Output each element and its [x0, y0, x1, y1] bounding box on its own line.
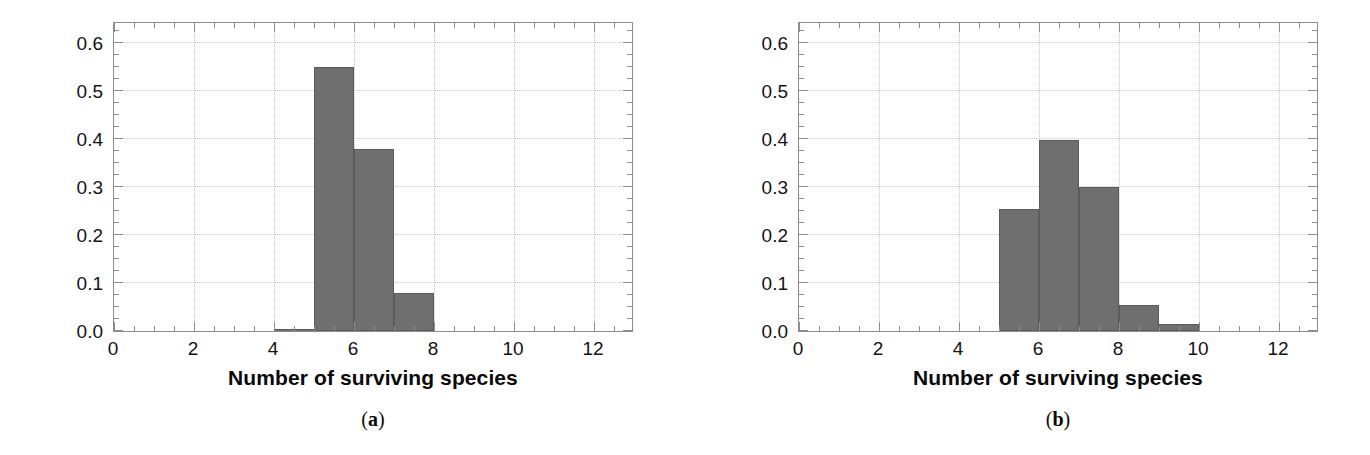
- y-axis-tick: [799, 270, 804, 271]
- x-axis-tick: [514, 23, 515, 32]
- y-axis-tick: [627, 318, 632, 319]
- y-axis-tick: [114, 258, 119, 259]
- x-axis-tick: [154, 326, 155, 331]
- y-axis-tick: [1312, 150, 1317, 151]
- x-axis-tick: [1259, 326, 1260, 331]
- x-axis-tick: [1239, 326, 1240, 331]
- y-axis-tick: [627, 78, 632, 79]
- x-axis-tick: [919, 326, 920, 331]
- x-axis-tick: [334, 23, 335, 28]
- y-axis-tick: [799, 42, 808, 43]
- y-axis-tick: [627, 210, 632, 211]
- panel-a: Probability Number of surviving species …: [0, 0, 685, 455]
- x-axis-tick: [554, 23, 555, 28]
- x-axis-tick: [394, 23, 395, 28]
- y-axis-tick: [114, 102, 119, 103]
- x-axis-title-a: Number of surviving species: [113, 366, 633, 390]
- x-axis-tick: [254, 326, 255, 331]
- x-axis-tick: [1199, 23, 1200, 32]
- x-axis-tick: [494, 23, 495, 28]
- x-axis-tick: [454, 326, 455, 331]
- y-axis-tick: [799, 330, 808, 331]
- x-axis-tick: [839, 23, 840, 28]
- x-axis-tick: [594, 23, 595, 32]
- x-axis-tick: [514, 322, 515, 331]
- y-axis-tick: [627, 246, 632, 247]
- y-axis-tick: [1312, 306, 1317, 307]
- x-axis-tick: [1299, 326, 1300, 331]
- y-axis-tick: [627, 258, 632, 259]
- x-axis-tick: [314, 23, 315, 28]
- y-axis-tick: [627, 102, 632, 103]
- y-axis-tick: [1312, 102, 1317, 103]
- y-axis-tick: [1308, 138, 1317, 139]
- y-axis-tick: [1312, 198, 1317, 199]
- x-axis-tick: [534, 326, 535, 331]
- y-axis-tick-label: 0.5: [718, 81, 788, 103]
- y-axis-tick: [114, 114, 119, 115]
- x-axis-tick: [114, 23, 115, 32]
- y-axis-tick-label: 0.1: [718, 273, 788, 295]
- x-axis-tick: [1199, 322, 1200, 331]
- x-axis-tick: [614, 326, 615, 331]
- x-axis-tick: [474, 23, 475, 28]
- y-axis-tick-label: 0.2: [718, 225, 788, 247]
- y-axis-tick: [114, 330, 123, 331]
- x-axis-tick: [354, 23, 355, 32]
- y-axis-tick-label: 0.6: [33, 33, 103, 55]
- panel-b: Probability Number of surviving species …: [685, 0, 1370, 455]
- y-axis-tick: [799, 90, 808, 91]
- x-axis-tick: [1099, 326, 1100, 331]
- y-axis-tick: [1312, 222, 1317, 223]
- x-axis-tick: [939, 23, 940, 28]
- y-axis-tick: [799, 282, 808, 283]
- x-axis-tick: [174, 326, 175, 331]
- y-axis-tick: [1312, 30, 1317, 31]
- x-axis-tick: [839, 326, 840, 331]
- y-axis-tick-label: 0.4: [33, 129, 103, 151]
- y-axis-tick-label: 0.4: [718, 129, 788, 151]
- x-axis-tick: [594, 322, 595, 331]
- x-axis-tick: [1279, 322, 1280, 331]
- x-axis-tick: [274, 23, 275, 32]
- y-axis-tick: [114, 126, 119, 127]
- x-axis-tick: [374, 23, 375, 28]
- y-axis-tick: [623, 234, 632, 235]
- y-axis-tick-label: 0.5: [33, 81, 103, 103]
- y-axis-tick: [799, 102, 804, 103]
- y-axis-tick: [1312, 210, 1317, 211]
- x-axis-tick: [194, 23, 195, 32]
- y-axis-tick: [1312, 66, 1317, 67]
- y-axis-tick: [114, 210, 119, 211]
- plot-inner-b: [799, 23, 1317, 331]
- y-axis-tick: [627, 150, 632, 151]
- x-axis-tick: [979, 326, 980, 331]
- y-axis-tick: [114, 162, 119, 163]
- x-axis-tick: [1159, 326, 1160, 331]
- y-axis-tick: [1312, 174, 1317, 175]
- panel-caption-a: (a): [113, 408, 633, 431]
- histogram-bar: [999, 209, 1039, 331]
- y-axis-tick: [627, 306, 632, 307]
- y-axis-tick: [114, 246, 119, 247]
- x-axis-tick: [234, 23, 235, 28]
- gridline-vertical: [594, 23, 595, 331]
- y-axis-title-a: Probability: [6, 0, 34, 54]
- x-axis-tick: [1039, 322, 1040, 331]
- gridline-vertical: [434, 23, 435, 331]
- x-axis-tick: [859, 326, 860, 331]
- y-axis-tick: [1308, 234, 1317, 235]
- y-axis-tick: [623, 282, 632, 283]
- gridline-horizontal: [114, 42, 632, 43]
- gridline-vertical: [1119, 23, 1120, 331]
- x-axis-tick: [1019, 326, 1020, 331]
- y-axis-tick: [799, 114, 804, 115]
- y-axis-tick: [114, 222, 119, 223]
- y-axis-tick-label: 0.3: [33, 177, 103, 199]
- y-axis-tick: [627, 198, 632, 199]
- y-axis-tick: [1308, 186, 1317, 187]
- x-axis-tick: [574, 23, 575, 28]
- x-axis-tick: [859, 23, 860, 28]
- y-axis-tick: [623, 330, 632, 331]
- x-axis-tick: [334, 326, 335, 331]
